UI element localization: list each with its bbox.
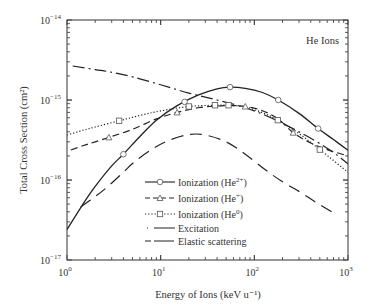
data-point-square	[226, 103, 231, 108]
data-point-square	[317, 147, 322, 152]
legend-label: Ionization (He0)	[178, 208, 243, 221]
cross-section-chart: 100101102103 10−1710−1610−1510−14 He Ion…	[0, 0, 372, 305]
x-tick-label: 100	[58, 265, 72, 278]
legend-label: Ionization (He+)	[178, 192, 243, 205]
data-point-circle	[315, 126, 321, 132]
legend-label: Excitation	[178, 223, 219, 234]
y-axis-title: Total Cross Section (cm²)	[18, 86, 30, 194]
y-tick-labels: 10−1710−1610−1510−14	[40, 13, 61, 266]
x-tick-label: 103	[339, 265, 353, 278]
legend-marker-square	[157, 211, 162, 216]
x-tick-labels: 100101102103	[58, 265, 353, 278]
data-point-square	[275, 117, 280, 122]
data-point-square	[116, 118, 121, 123]
annotation-he-ions: He Ions	[306, 35, 339, 46]
y-tick-label: 10−16	[40, 173, 61, 186]
data-point-circle	[121, 151, 127, 157]
x-tick-label: 102	[246, 265, 260, 278]
y-tick-label: 10−15	[40, 93, 61, 106]
data-point-circle	[227, 84, 233, 90]
data-point-square	[212, 103, 217, 108]
y-tick-label: 10−14	[40, 13, 61, 26]
y-tick-label: 10−17	[40, 253, 61, 266]
legend-marker-circle	[157, 179, 163, 185]
data-point-square	[186, 104, 191, 109]
x-axis-title: Energy of Ions (keV u⁻¹)	[155, 289, 261, 301]
legend-label: Elastic scattering	[178, 236, 247, 247]
data-point-circle	[275, 97, 281, 103]
x-tick-label: 101	[152, 265, 166, 278]
